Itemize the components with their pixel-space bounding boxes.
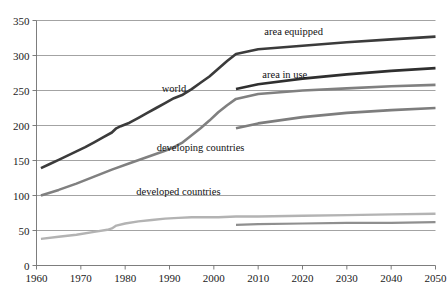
y-tick-label-150: 150 [13,155,30,167]
x-axis-tick-labels: 1960197019801990200020102020203020402050 [26,272,448,284]
x-tick-label-2050: 2050 [425,272,448,284]
data-series-group [41,37,436,239]
annotation-developing-countries: developing countries [157,142,245,153]
series-line-developed-countries-area-in-use [236,222,436,225]
x-tick-label-2030: 2030 [336,272,359,284]
series-line-developed-countries-area-equipped [41,214,436,239]
x-tick-label-2010: 2010 [247,272,270,284]
annotation-developed-countries: developed countries [136,186,220,197]
x-tick-label-1960: 1960 [26,272,49,284]
y-tick-label-50: 50 [19,225,31,237]
irrigation-area-line-chart: 050100150200250300350 196019701980199020… [0,0,448,299]
annotation-world: world [162,83,187,94]
gridlines-group [37,21,436,231]
y-axis-tick-labels: 050100150200250300350 [13,15,30,272]
annotation-area-equipped: area equipped [264,26,323,37]
y-tick-label-350: 350 [13,15,30,27]
y-tick-label-250: 250 [13,85,30,97]
x-tick-label-1970: 1970 [70,272,93,284]
y-tick-label-200: 200 [13,120,30,132]
y-tick-label-0: 0 [24,260,30,272]
x-tick-label-1990: 1990 [159,272,182,284]
annotation-area-in-use: area in use [262,69,307,80]
y-tick-label-100: 100 [13,190,30,202]
chart-screenshot: 050100150200250300350 196019701980199020… [0,0,448,299]
y-tick-label-300: 300 [13,50,30,62]
x-tick-label-2040: 2040 [380,272,403,284]
x-tick-label-2020: 2020 [292,272,315,284]
x-tick-label-1980: 1980 [114,272,137,284]
x-tick-label-2000: 2000 [203,272,226,284]
series-annotations: area equippedarea in useworlddeveloping … [136,26,323,197]
